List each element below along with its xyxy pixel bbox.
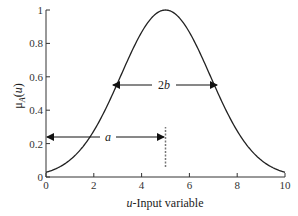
y-ticks: 00.20.40.60.81 bbox=[29, 4, 50, 183]
x-tick-label: 10 bbox=[280, 179, 292, 191]
x-tick-label: 4 bbox=[139, 179, 145, 191]
x-tick-label: 8 bbox=[234, 179, 240, 191]
label-a: a bbox=[105, 130, 111, 144]
x-ticks: 0246810 bbox=[43, 173, 291, 191]
chart-svg: 00.20.40.60.81 0246810 a 2b μA(u) u-Inpu… bbox=[0, 0, 298, 216]
x-tick-label: 2 bbox=[91, 179, 97, 191]
annotation-a: a bbox=[47, 130, 164, 144]
x-tick-label: 0 bbox=[43, 179, 49, 191]
x-axis-label: u-Input variable bbox=[127, 196, 204, 210]
y-axis-label: μA(u) bbox=[11, 83, 27, 108]
x-tick-label: 6 bbox=[187, 179, 193, 191]
annotation-2b: 2b bbox=[113, 78, 217, 92]
label-2b: 2b bbox=[158, 78, 170, 92]
y-tick-label: 0.8 bbox=[29, 37, 43, 49]
y-tick-label: 0.6 bbox=[29, 71, 43, 83]
y-tick-label: 0.4 bbox=[29, 104, 43, 116]
y-tick-label: 0.2 bbox=[29, 138, 43, 150]
y-tick-label: 1 bbox=[38, 4, 44, 16]
